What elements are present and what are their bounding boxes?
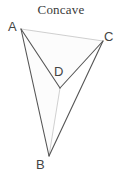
figure-canvas: Concave A C D B bbox=[0, 0, 122, 180]
vertex-label-c: C bbox=[104, 30, 113, 43]
vertex-label-d: D bbox=[54, 65, 63, 78]
concave-quadrilateral-svg bbox=[0, 0, 122, 180]
vertex-label-b: B bbox=[36, 158, 45, 171]
vertex-label-a: A bbox=[8, 20, 17, 33]
